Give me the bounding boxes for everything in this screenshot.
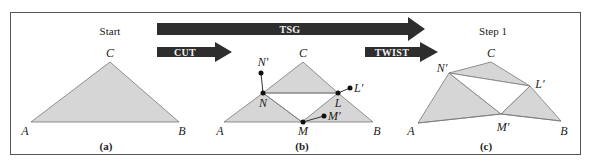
tsg-arrow: TSG: [157, 17, 425, 41]
vertex-c-label: C: [299, 46, 308, 60]
panel-c-caption: (c): [480, 140, 493, 153]
triangle-abc: [31, 62, 179, 122]
panel-c-title: Step 1: [479, 25, 507, 37]
vertex-b-label: B: [560, 124, 568, 138]
panel-b: C A B N L M N′ L′ M′ (b): [215, 46, 381, 153]
vertex-b-label: B: [178, 124, 186, 138]
panel-b-caption: (b): [295, 140, 309, 153]
point-n-prime-label: N′: [257, 55, 269, 69]
point-m-label: M: [297, 124, 309, 138]
point-l-prime-label: L′: [353, 81, 364, 95]
vertex-a-label: A: [215, 124, 224, 138]
twist-arrow: TWIST: [365, 42, 438, 62]
point-n-prime-label: N′: [436, 61, 448, 75]
triangle-ncl: [263, 62, 338, 93]
point-l-prime-label: L′: [534, 77, 545, 91]
panel-a: Start C A B (a): [20, 25, 186, 153]
vertex-b-label: B: [373, 124, 381, 138]
panel-a-title: Start: [100, 25, 121, 37]
vertex-a-label: A: [20, 124, 29, 138]
vertex-c-label: C: [487, 46, 496, 60]
twist-label: TWIST: [375, 47, 409, 58]
point-m-prime-label: M′: [327, 109, 341, 123]
panel-c: Step 1 C A B N′ L′ M′ (c): [406, 25, 568, 153]
diagram: TSG CUT TWIST Start C A B (a) C A B: [0, 0, 591, 165]
point-l-label: L: [334, 96, 342, 110]
vertex-a-label: A: [406, 124, 415, 138]
cut-arrow: CUT: [157, 42, 232, 62]
tsg-label: TSG: [280, 24, 301, 35]
panel-a-caption: (a): [100, 140, 113, 153]
vertex-c-label: C: [106, 46, 115, 60]
point-m-prime-label: M′: [496, 120, 510, 134]
cut-label: CUT: [174, 47, 196, 58]
point-n-label: N: [258, 96, 268, 110]
